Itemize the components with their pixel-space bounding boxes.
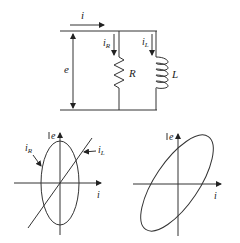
- right-plot: e i: [127, 124, 226, 241]
- right-plot-y-label: e: [169, 131, 174, 142]
- left-plot-ir-pointer-icon: [33, 155, 41, 166]
- rl-parallel-circuit-figure: i e iR R iL L: [0, 0, 240, 243]
- left-plot-y-label: e: [51, 130, 56, 141]
- right-plot-tilted-ellipse: [127, 124, 226, 241]
- inductor-branch: iL L: [142, 31, 178, 110]
- left-plot-il-pointer-icon: [84, 151, 96, 152]
- source-current-label: i: [81, 9, 84, 21]
- inductor-label: L: [171, 68, 178, 80]
- resistor-branch: iR R: [103, 31, 136, 110]
- left-plot-il-label: iL: [98, 144, 105, 157]
- inductor-current-label: iL: [142, 36, 149, 49]
- circuit-diagram: i e iR R iL L: [60, 9, 178, 110]
- inductor-coil-icon: [156, 57, 168, 88]
- resistor-label: R: [128, 67, 136, 79]
- resistor-current-label: iR: [103, 37, 111, 50]
- resistor-icon: [114, 57, 124, 88]
- left-plot: e i iR iL: [14, 130, 105, 235]
- voltage-label: e: [64, 63, 69, 75]
- right-plot-x-label: i: [214, 190, 217, 201]
- left-plot-ir-label: iR: [25, 142, 33, 155]
- left-plot-x-label: i: [97, 189, 100, 200]
